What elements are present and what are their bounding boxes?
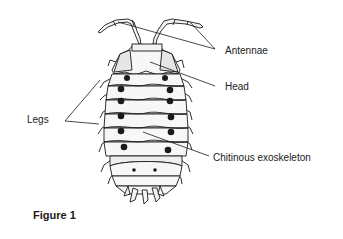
isopod-diagram — [0, 0, 343, 239]
figure-caption: Figure 1 — [33, 210, 76, 221]
body-segments — [104, 74, 188, 194]
label-antennae: Antennae — [225, 46, 268, 56]
isopod-body — [98, 44, 193, 204]
antennae-drawing — [98, 19, 203, 44]
legs-leader — [65, 80, 100, 124]
label-legs: Legs — [27, 115, 49, 125]
label-exoskeleton: Chitinous exoskeleton — [213, 153, 311, 163]
label-head: Head — [225, 82, 249, 92]
